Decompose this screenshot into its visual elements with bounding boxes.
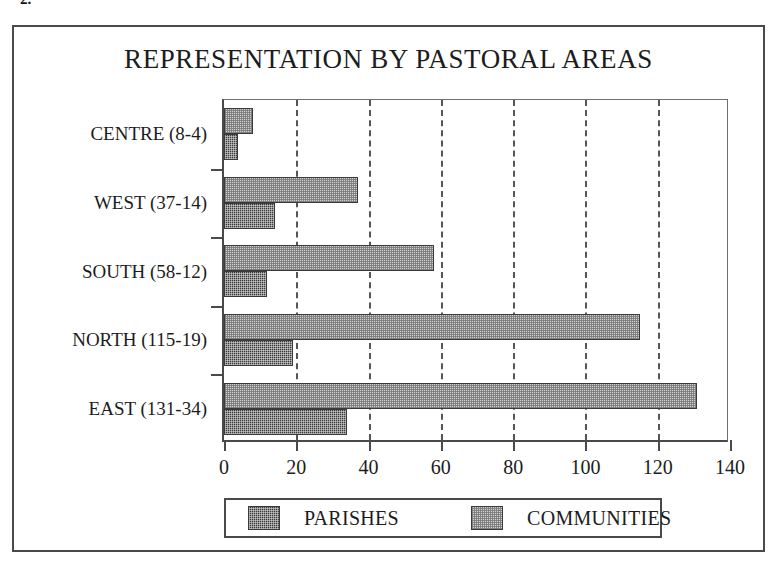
x-axis-tick-120 bbox=[658, 440, 660, 451]
figure-frame: REPRESENTATION BY PASTORAL AREAS CENTRE … bbox=[12, 25, 765, 552]
bar-communities bbox=[224, 177, 358, 203]
bar-group bbox=[224, 306, 727, 375]
y-axis-tick-1 bbox=[211, 169, 224, 171]
bar-group bbox=[224, 169, 727, 238]
legend-entry-parishes: PARISHES bbox=[248, 506, 399, 530]
x-axis-label-140: 140 bbox=[715, 456, 745, 479]
bar-parishes bbox=[224, 271, 267, 297]
y-axis-label-3: NORTH (115-19) bbox=[72, 329, 207, 351]
y-axis-tick-2 bbox=[211, 237, 224, 239]
x-axis-tick-40 bbox=[369, 440, 371, 451]
legend-label-communities: COMMUNITIES bbox=[527, 507, 671, 530]
y-axis-tick-4 bbox=[211, 374, 224, 376]
bar-group bbox=[224, 237, 727, 306]
x-axis-label-40: 40 bbox=[359, 456, 379, 479]
legend-entry-communities: COMMUNITIES bbox=[471, 506, 671, 530]
x-axis-label-80: 80 bbox=[503, 456, 523, 479]
bar-communities bbox=[224, 314, 640, 340]
x-axis-tick-100 bbox=[585, 440, 587, 451]
y-axis-label-4: EAST (131-34) bbox=[89, 398, 207, 420]
bar-group bbox=[224, 374, 727, 443]
y-axis-label-0: CENTRE (8-4) bbox=[90, 123, 207, 145]
y-axis-tick-3 bbox=[211, 306, 224, 308]
bar-group bbox=[224, 100, 727, 169]
x-axis-label-60: 60 bbox=[431, 456, 451, 479]
x-axis-label-100: 100 bbox=[570, 456, 600, 479]
bar-communities bbox=[224, 108, 253, 134]
x-axis-tick-20 bbox=[296, 440, 298, 451]
x-axis-label-20: 20 bbox=[286, 456, 306, 479]
y-axis-label-2: SOUTH (58-12) bbox=[82, 261, 207, 283]
y-axis-label-1: WEST (37-14) bbox=[94, 192, 207, 214]
plot-area: CENTRE (8-4)WEST (37-14)SOUTH (58-12)NOR… bbox=[222, 99, 728, 442]
x-axis-tick-140 bbox=[730, 440, 732, 451]
bar-parishes bbox=[224, 203, 275, 229]
chart-title: REPRESENTATION BY PASTORAL AREAS bbox=[14, 44, 763, 75]
x-axis-label-0: 0 bbox=[219, 456, 229, 479]
x-axis-tick-80 bbox=[513, 440, 515, 451]
x-axis-tick-60 bbox=[441, 440, 443, 451]
bar-communities bbox=[224, 245, 434, 271]
x-axis-label-120: 120 bbox=[643, 456, 673, 479]
page-number-mark: 2. bbox=[20, 0, 31, 8]
bar-parishes bbox=[224, 134, 238, 160]
chart-legend: PARISHESCOMMUNITIES bbox=[224, 498, 662, 538]
bar-parishes bbox=[224, 340, 293, 366]
bar-communities bbox=[224, 383, 697, 409]
legend-swatch-parishes bbox=[248, 506, 280, 530]
legend-label-parishes: PARISHES bbox=[304, 507, 399, 530]
legend-swatch-communities bbox=[471, 506, 503, 530]
bar-parishes bbox=[224, 409, 347, 435]
x-axis-tick-0 bbox=[224, 440, 226, 451]
